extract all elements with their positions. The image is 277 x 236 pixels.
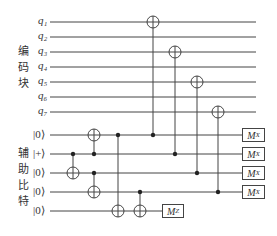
cnot-gate (112, 135, 124, 217)
cnot-gate (169, 46, 181, 154)
cnot-gate (67, 154, 79, 179)
label-char: 码 (16, 60, 30, 76)
qubit-label-q2: q₂ (38, 30, 47, 41)
measure-x-a2: MX (242, 147, 265, 161)
measure-z-a5: MZ (162, 204, 184, 218)
control-dot (138, 190, 142, 194)
control-dot (216, 190, 220, 194)
ancilla-state-a3: |0⟩ (33, 167, 45, 178)
cnot-gate (134, 192, 146, 217)
qubit-label-q4: q₄ (38, 60, 47, 71)
label-char: 比 (16, 178, 30, 194)
cnot-gate (147, 16, 159, 135)
label-char: 助 (16, 162, 30, 178)
qubit-label-q1: q₁ (38, 15, 47, 26)
ancilla-state-a4: |0⟩ (33, 186, 45, 197)
cnot-gate (88, 129, 100, 154)
measure-x-a3: MX (242, 166, 265, 180)
measure-x-a1: MX (242, 128, 265, 142)
qubit-label-q7: q₇ (38, 105, 47, 116)
qubit-label-q6: q₆ (38, 90, 47, 101)
ancilla-state-a1: |0⟩ (33, 129, 45, 140)
cnot-gate (88, 173, 100, 198)
control-dot (116, 133, 120, 137)
ancilla-state-a5: |0⟩ (33, 205, 45, 216)
label-char: 编 (16, 44, 30, 60)
label-char: 特 (16, 194, 30, 210)
cnot-gate (212, 106, 224, 192)
ancilla-bits-label: 辅 助 比 特 (16, 146, 30, 210)
label-char: 块 (16, 76, 30, 92)
control-dot (71, 152, 75, 156)
measure-x-a4: MX (242, 185, 265, 199)
encoding-block-label: 编 码 块 (16, 44, 30, 92)
ancilla-state-a2: |+⟩ (33, 148, 45, 159)
control-dot (92, 171, 96, 175)
control-dot (195, 171, 199, 175)
qubit-label-q5: q₅ (38, 75, 47, 86)
control-dot (173, 152, 177, 156)
control-dot (92, 152, 96, 156)
label-char: 辅 (16, 146, 30, 162)
cnot-gate (191, 76, 203, 173)
control-dot (151, 133, 155, 137)
qubit-label-q3: q₃ (38, 45, 47, 56)
